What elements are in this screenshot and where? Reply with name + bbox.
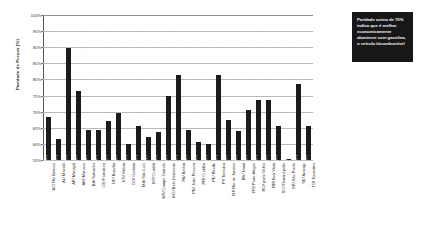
- bar-slot[interactable]: 61.5%: [56, 15, 61, 160]
- x-category-slot: RJ/ Rio de Janeiro: [223, 162, 233, 226]
- x-category-slot: SC/ Florianópolis: [273, 162, 283, 226]
- bar-slot[interactable]: 67.5%: [226, 15, 231, 160]
- x-category-slot: RR/ Boa Vista: [263, 162, 273, 226]
- bar[interactable]: [296, 84, 301, 160]
- plot-area: 68.5%61.5%89.7%76.5%64.4%64.4%67.2%69.5%…: [43, 15, 313, 160]
- bar-slot[interactable]: 64.4%: [96, 15, 101, 160]
- x-category-slot: RN/ Natal: [233, 162, 243, 226]
- bar-slot[interactable]: 89.7%: [66, 15, 71, 160]
- x-category-slot: PA/ Belém: [173, 162, 183, 226]
- bar-slot[interactable]: 69.5%: [116, 15, 121, 160]
- bar-slot[interactable]: 60.0%: [126, 15, 131, 160]
- x-category-slot: MG/ Belo Horizonte: [163, 162, 173, 226]
- x-category-slot: SP/ São Paulo: [283, 162, 293, 226]
- x-category-slot: PE/ Recife: [203, 162, 213, 226]
- y-tick-label: 55%: [33, 158, 41, 163]
- bar-slot[interactable]: 81.5%: [176, 15, 181, 160]
- y-tick-label: 100%: [30, 13, 41, 18]
- y-tick-label: 65%: [33, 125, 41, 130]
- bar-slot[interactable]: 73.5%: [266, 15, 271, 160]
- x-category-slot: PB/ João Pessoa: [183, 162, 193, 226]
- y-axis-tick-labels: 100%95%90%85%80%75%70%65%60%55%: [20, 15, 43, 160]
- bar-slot[interactable]: 63.6%: [156, 15, 161, 160]
- bar-slot[interactable]: 63.9%: [236, 15, 241, 160]
- bar-slot[interactable]: 62.1%: [146, 15, 151, 160]
- x-category-slot: SE/ Aracaju: [293, 162, 303, 226]
- annotation-callout: Paridade acima de 70% indica que é melho…: [352, 12, 413, 62]
- y-tick-label: 85%: [33, 61, 41, 66]
- y-axis-title: Paridade de Preços (%): [15, 10, 20, 120]
- x-category-slot: BA/ Salvador: [83, 162, 93, 226]
- bar[interactable]: [256, 100, 261, 160]
- x-category-slot: TO/ Tocantins: [303, 162, 313, 226]
- bar[interactable]: [246, 110, 251, 160]
- x-category-slot: AL/ Maceió: [53, 162, 63, 226]
- bar[interactable]: [266, 100, 271, 160]
- x-category-label: TO/ Tocantins: [311, 163, 316, 187]
- x-category-slot: MS/ Campo Grande: [153, 162, 163, 226]
- x-category-slot: DF/ Brasília: [103, 162, 113, 226]
- x-category-slot: PR/ Curitiba: [193, 162, 203, 226]
- x-category-slot: AM/ Manaus: [73, 162, 83, 226]
- bar-slot[interactable]: 60.6%: [196, 15, 201, 160]
- x-category-slot: RO/ porto Velho: [253, 162, 263, 226]
- annotation-text: Paridade acima de 70% indica que é melho…: [357, 17, 409, 47]
- bar-slot[interactable]: 55.4%: [286, 15, 291, 160]
- bar-slot[interactable]: 78.5%: [296, 15, 301, 160]
- bar-slot[interactable]: 65.5%: [306, 15, 311, 160]
- bar-slot[interactable]: 75.0%: [166, 15, 171, 160]
- bar[interactable]: [46, 117, 51, 161]
- x-category-slot: PI/ Teresina: [213, 162, 223, 226]
- bar[interactable]: [216, 75, 221, 160]
- bar-slot[interactable]: 68.5%: [46, 15, 51, 160]
- bar[interactable]: [116, 113, 121, 160]
- x-category-slot: AC/ Rio Branco: [43, 162, 53, 226]
- chart-figure: Paridade de Preços (%) 100%95%90%85%80%7…: [0, 0, 426, 229]
- y-tick-label: 90%: [33, 45, 41, 50]
- y-tick-label: 60%: [33, 141, 41, 146]
- y-tick-label: 80%: [33, 77, 41, 82]
- bar-slot[interactable]: 73.5%: [256, 15, 261, 160]
- x-category-slot: MT/ Cuiabá: [143, 162, 153, 226]
- bar-slot[interactable]: 81.5%: [216, 15, 221, 160]
- bar-slot[interactable]: 70.5%: [246, 15, 251, 160]
- bar-slot[interactable]: 76.5%: [76, 15, 81, 160]
- x-category-slot: ES/ Vitória: [113, 162, 123, 226]
- y-tick-label: 95%: [33, 29, 41, 34]
- x-category-slot: AP/ Macapá: [63, 162, 73, 226]
- bar[interactable]: [176, 75, 181, 160]
- bar[interactable]: [76, 91, 81, 160]
- bar-slot[interactable]: 64.4%: [186, 15, 191, 160]
- x-axis-category-labels: AC/ Rio BrancoAL/ MaceióAP/ MacapáAM/ Ma…: [43, 162, 313, 226]
- x-category-slot: GO/ Goiânia: [123, 162, 133, 226]
- bar-slot[interactable]: 59.9%: [206, 15, 211, 160]
- bar-slot[interactable]: 64.4%: [86, 15, 91, 160]
- x-category-slot: RS/ Porto Alegre: [243, 162, 253, 226]
- bar-slot[interactable]: 67.2%: [106, 15, 111, 160]
- bar-slot[interactable]: 65.5%: [136, 15, 141, 160]
- y-tick-label: 70%: [33, 109, 41, 114]
- y-tick-label: 75%: [33, 93, 41, 98]
- bar[interactable]: [66, 48, 71, 160]
- bar-slot[interactable]: 65.5%: [276, 15, 281, 160]
- x-category-slot: CE/ Fortaleza: [93, 162, 103, 226]
- x-category-slot: MA/ São Luís: [133, 162, 143, 226]
- bar[interactable]: [166, 96, 171, 160]
- bars-series: 68.5%61.5%89.7%76.5%64.4%64.4%67.2%69.5%…: [43, 15, 313, 160]
